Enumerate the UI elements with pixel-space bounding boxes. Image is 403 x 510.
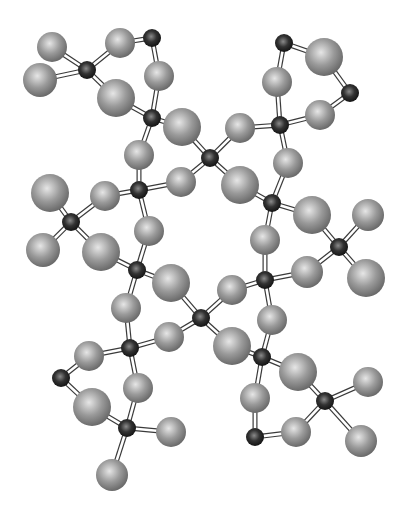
light-atom: [156, 417, 186, 447]
dark-atom: [256, 271, 274, 289]
light-atom: [281, 417, 311, 447]
dark-atom: [253, 348, 271, 366]
dark-atom: [271, 116, 289, 134]
light-atom: [111, 293, 141, 323]
light-atom: [90, 181, 120, 211]
light-atom: [353, 367, 383, 397]
light-atom: [257, 305, 287, 335]
dark-atom: [143, 29, 161, 47]
atoms-layer: [23, 28, 385, 491]
light-atom: [352, 199, 384, 231]
light-atom: [82, 233, 120, 271]
light-atom: [305, 38, 343, 76]
dark-atom: [118, 419, 136, 437]
light-atom: [23, 63, 57, 97]
light-atom: [134, 216, 164, 246]
light-atom: [166, 167, 196, 197]
dark-atom: [143, 109, 161, 127]
light-atom: [123, 373, 153, 403]
light-atom: [144, 61, 174, 91]
dark-atom: [52, 369, 70, 387]
light-atom: [291, 256, 323, 288]
light-atom: [26, 233, 60, 267]
molecule-diagram: [0, 0, 403, 510]
dark-atom: [275, 34, 293, 52]
light-atom: [124, 140, 154, 170]
light-atom: [250, 225, 280, 255]
dark-atom: [246, 428, 264, 446]
dark-atom: [130, 181, 148, 199]
dark-atom: [263, 194, 281, 212]
light-atom: [213, 327, 251, 365]
light-atom: [163, 108, 201, 146]
light-atom: [31, 174, 69, 212]
dark-atom: [128, 261, 146, 279]
light-atom: [240, 383, 270, 413]
dark-atom: [62, 213, 80, 231]
light-atom: [96, 459, 128, 491]
light-atom: [293, 196, 331, 234]
light-atom: [154, 322, 184, 352]
light-atom: [74, 341, 104, 371]
light-atom: [97, 79, 135, 117]
molecule-figure: [0, 0, 403, 510]
light-atom: [262, 67, 292, 97]
light-atom: [37, 32, 67, 62]
light-atom: [73, 388, 111, 426]
light-atom: [105, 28, 135, 58]
light-atom: [225, 113, 255, 143]
dark-atom: [121, 339, 139, 357]
dark-atom: [192, 309, 210, 327]
dark-atom: [78, 61, 96, 79]
dark-atom: [316, 392, 334, 410]
dark-atom: [330, 238, 348, 256]
light-atom: [217, 275, 247, 305]
light-atom: [345, 425, 377, 457]
dark-atom: [341, 84, 359, 102]
light-atom: [347, 259, 385, 297]
light-atom: [279, 353, 317, 391]
light-atom: [305, 100, 335, 130]
light-atom: [152, 264, 190, 302]
light-atom: [273, 148, 303, 178]
light-atom: [221, 166, 259, 204]
dark-atom: [201, 149, 219, 167]
